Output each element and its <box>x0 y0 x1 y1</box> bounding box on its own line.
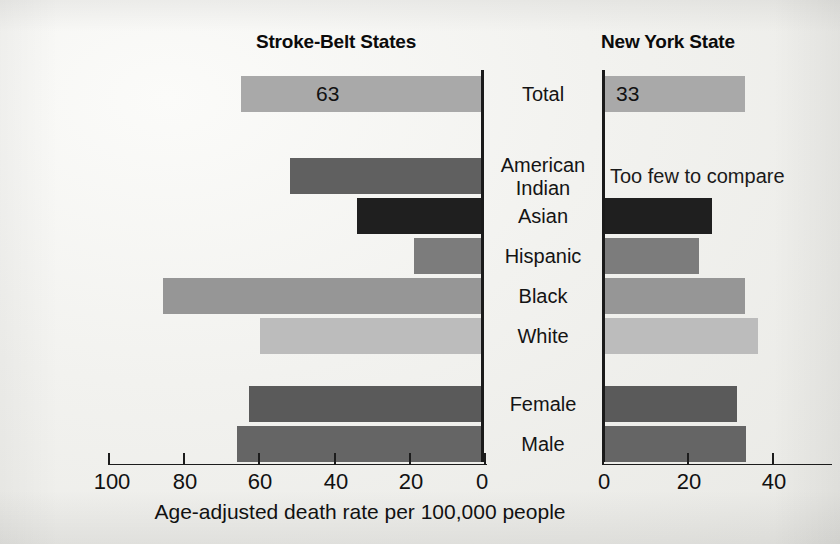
category-label-asian: Asian <box>484 205 602 228</box>
ticklabel-left-0: 0 <box>476 469 488 495</box>
tick-left-80 <box>183 453 185 464</box>
bar-right-hispanic <box>605 238 699 274</box>
right-zero-axis-line <box>602 70 605 462</box>
chart-figure: Stroke-Belt States New York State 63 <box>0 0 840 544</box>
ticklabel-left-20: 20 <box>399 469 423 495</box>
bar-right-male <box>605 426 746 462</box>
bar-left-white <box>260 318 481 354</box>
ticklabel-right-40: 40 <box>762 469 786 495</box>
tick-left-60 <box>258 453 260 464</box>
bar-left-male <box>237 426 481 462</box>
bar-right-white <box>605 318 758 354</box>
bar-left-american-indian <box>290 158 481 194</box>
ticklabel-left-80: 80 <box>173 469 197 495</box>
bar-left-hispanic <box>414 238 481 274</box>
ticklabel-right-0: 0 <box>598 469 610 495</box>
tick-right-0 <box>602 453 604 464</box>
bar-right-asian <box>605 198 712 234</box>
left-x-axis-line <box>108 464 487 465</box>
tick-left-40 <box>334 453 336 464</box>
left-panel-title: Stroke-Belt States <box>256 31 416 53</box>
category-label-hispanic: Hispanic <box>484 245 602 268</box>
tick-right-20 <box>687 453 689 464</box>
right-panel-title: New York State <box>601 31 735 53</box>
ticklabel-right-20: 20 <box>677 469 701 495</box>
bar-left-black <box>163 278 481 314</box>
category-label-american-indian: American Indian <box>484 154 602 200</box>
tick-left-100 <box>108 453 110 464</box>
bar-right-black <box>605 278 745 314</box>
bar-value-right-total: 33 <box>616 76 639 112</box>
bar-left-total <box>241 76 481 112</box>
right-panel-plot-area: 33 Too few to compare <box>602 70 815 462</box>
bar-right-female <box>605 386 737 422</box>
tick-right-40 <box>772 453 774 464</box>
x-axis-caption: Age-adjusted death rate per 100,000 peop… <box>0 500 840 524</box>
ticklabel-left-40: 40 <box>324 469 348 495</box>
x-axis-caption-text: Age-adjusted death rate per 100,000 peop… <box>155 500 566 523</box>
bar-left-female <box>249 386 481 422</box>
category-label-column: Total American Indian Asian Hispanic Bla… <box>484 70 602 462</box>
right-x-axis-line <box>602 464 832 465</box>
category-label-black: Black <box>484 285 602 308</box>
bar-value-left-total: 63 <box>316 76 339 112</box>
category-label-total: Total <box>484 83 602 106</box>
bar-left-asian <box>357 198 481 234</box>
tick-left-0 <box>484 453 486 464</box>
left-panel-plot-area: 63 <box>108 70 484 462</box>
category-label-female: Female <box>484 393 602 416</box>
left-zero-axis-line <box>481 70 484 462</box>
category-label-white: White <box>484 325 602 348</box>
tick-left-20 <box>409 453 411 464</box>
ticklabel-left-60: 60 <box>248 469 272 495</box>
too-few-to-compare-note: Too few to compare <box>610 161 785 191</box>
ticklabel-left-100: 100 <box>94 469 131 495</box>
category-label-male: Male <box>484 433 602 456</box>
